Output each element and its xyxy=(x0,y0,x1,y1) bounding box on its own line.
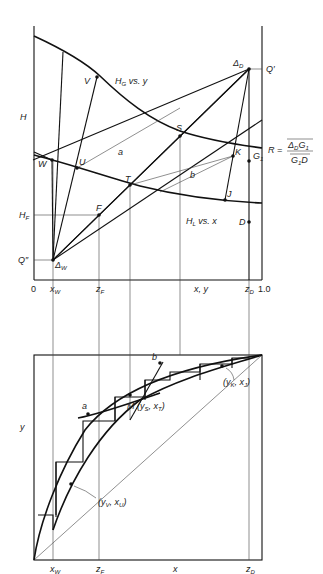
label-s: S xyxy=(176,123,182,133)
label-yk-xj: (yK, xJ) xyxy=(223,377,250,388)
label-t: T xyxy=(125,174,132,184)
xy-diagram: y a b M (yS, xT) (yK, xJ) (yV, xU) xW zF… xyxy=(19,280,262,574)
label-u: U xyxy=(79,157,86,167)
tick-xy: x, y xyxy=(193,284,209,294)
label-q-prime: Q′ xyxy=(266,64,275,74)
enthalpy-concentration-diagram: H V HG vs. y W U T S K G1 J D F HF HL vs… xyxy=(18,26,313,295)
label-j: J xyxy=(226,189,232,199)
leader-yv-xu xyxy=(74,486,96,498)
point-yk-xj xyxy=(220,364,224,368)
point-s xyxy=(178,134,182,138)
label-d: D xyxy=(239,217,246,227)
tick-1: 1.0 xyxy=(258,284,271,294)
label-yv-xu: (yV, xU) xyxy=(98,497,126,508)
label-v: V xyxy=(84,76,91,86)
label-q-double-prime: Q″ xyxy=(18,255,29,265)
operating-line-a xyxy=(77,108,180,168)
reflux-ratio-formula: R = ΔDG1 G1D xyxy=(268,139,313,166)
r-denominator: G1D xyxy=(291,155,308,166)
hg-vapor-curve xyxy=(34,36,262,148)
tick-zf-lower: zF xyxy=(95,564,105,574)
label-y-axis: y xyxy=(19,422,25,432)
label-h: H xyxy=(20,112,27,122)
label-hl-vs-x: HL vs. x xyxy=(186,216,217,227)
tie-line-1 xyxy=(53,52,63,260)
stage-0 xyxy=(38,515,53,530)
point-delta-d xyxy=(247,67,251,71)
tie-line-v xyxy=(53,77,97,260)
label-delta-w: ΔW xyxy=(54,260,68,271)
distillation-diagram: H V HG vs. y W U T S K G1 J D F HF HL vs… xyxy=(0,0,323,574)
tick-zd-lower: zD xyxy=(245,564,256,574)
label-a: a xyxy=(118,147,123,157)
label-hg-vs-y: HG vs. y xyxy=(115,76,148,87)
r-numerator: ΔDG1 xyxy=(287,140,309,151)
tick-xw: xW xyxy=(49,284,62,295)
point-yv-xu xyxy=(69,482,73,486)
point-a xyxy=(86,412,90,416)
tick-0: 0 xyxy=(31,284,36,294)
r-equals: R = xyxy=(268,145,282,155)
label-hf: HF xyxy=(19,210,30,221)
label-w: W xyxy=(38,159,48,169)
operating-line-b xyxy=(160,156,233,192)
point-g1 xyxy=(247,159,251,163)
point-d xyxy=(247,220,251,224)
tick-x-lower: x xyxy=(172,564,178,574)
label-b2: b xyxy=(152,352,157,362)
point-m xyxy=(128,393,132,397)
tick-xw-lower: xW xyxy=(49,564,62,574)
label-delta-d: ΔD xyxy=(232,58,244,69)
label-a2: a xyxy=(82,401,87,411)
point-b xyxy=(158,361,162,365)
label-k: K xyxy=(235,147,242,157)
point-f xyxy=(97,213,101,217)
tick-zf: zF xyxy=(95,284,105,295)
point-w xyxy=(50,158,54,162)
label-f: F xyxy=(96,203,102,213)
label-b: b xyxy=(190,170,195,180)
point-v xyxy=(95,75,99,79)
label-m: M (yS, xT) xyxy=(127,401,165,412)
